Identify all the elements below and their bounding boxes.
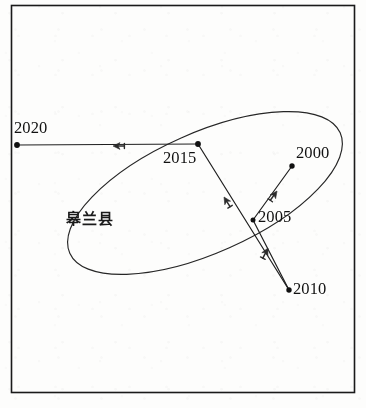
centroid-dot-2005 [251, 218, 256, 223]
centroid-dot-2010 [286, 287, 291, 292]
centroid-dot-2000 [289, 163, 294, 168]
centroid-dots [14, 141, 295, 293]
region-name-label: 皋兰县 [66, 212, 115, 227]
map-frame [12, 6, 355, 393]
map-canvas [0, 0, 366, 408]
arrow-2015-to-2020-icon [113, 143, 124, 150]
centroid-dot-2015 [195, 141, 201, 147]
centroid-trajectory [17, 144, 292, 290]
year-label-2005: 2005 [258, 209, 291, 226]
centroid-dot-2020 [14, 142, 20, 148]
standard-deviational-ellipse [45, 78, 364, 308]
year-label-2015: 2015 [163, 150, 196, 167]
segment-2015-2020 [17, 144, 198, 145]
year-label-2010: 2010 [293, 281, 326, 298]
standard-deviational-ellipse-map: 2020 2015 2000 2005 2010 皋兰县 [0, 0, 366, 408]
year-label-2000: 2000 [296, 145, 329, 162]
segment-2005-2010 [253, 220, 289, 290]
year-label-2020: 2020 [14, 120, 47, 137]
